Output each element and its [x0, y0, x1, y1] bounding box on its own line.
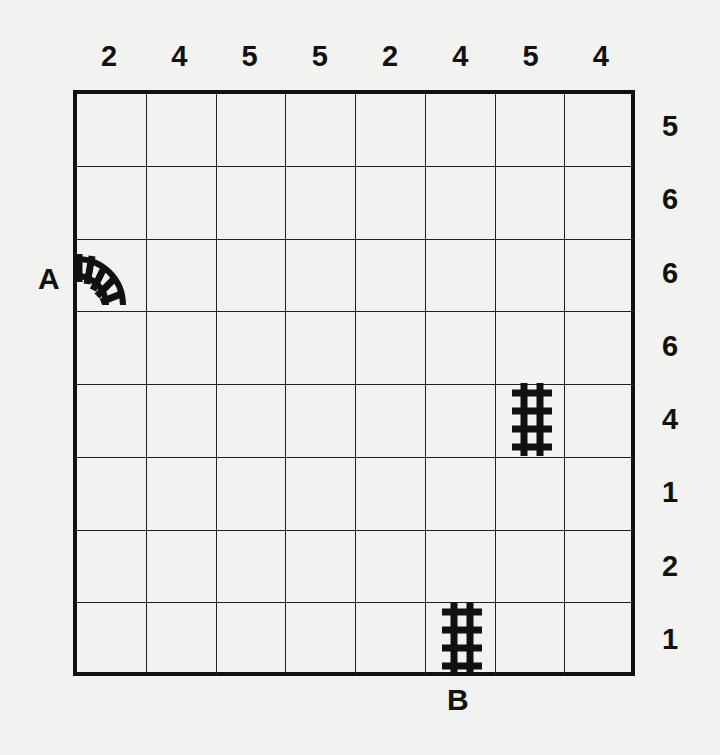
grid-cell[interactable] — [286, 531, 356, 604]
grid-cell[interactable] — [496, 458, 566, 531]
grid-cell[interactable] — [356, 240, 426, 313]
grid-cell[interactable] — [286, 312, 356, 385]
grid-cell[interactable] — [426, 458, 496, 531]
grid-cell[interactable] — [565, 385, 635, 458]
grid-cell[interactable] — [286, 167, 356, 240]
grid-cell[interactable] — [286, 94, 356, 167]
grid-cell[interactable] — [356, 312, 426, 385]
grid-cell[interactable] — [426, 240, 496, 313]
grid-cell[interactable] — [147, 458, 217, 531]
grid-cell[interactable] — [496, 603, 566, 676]
grid-cell[interactable] — [147, 603, 217, 676]
column-clue: 4 — [144, 40, 214, 73]
column-clue: 5 — [215, 40, 285, 73]
grid-cell[interactable] — [565, 94, 635, 167]
row-clue: 6 — [650, 183, 690, 216]
grid-cell[interactable] — [77, 385, 147, 458]
row-clue: 6 — [650, 330, 690, 363]
grid-cell[interactable] — [426, 531, 496, 604]
grid-cell[interactable] — [426, 385, 496, 458]
straight-track-icon — [427, 602, 497, 675]
row-clue: 5 — [650, 110, 690, 143]
row-clue: 1 — [650, 623, 690, 656]
grid-cell[interactable] — [147, 312, 217, 385]
grid-cell[interactable] — [147, 385, 217, 458]
grid-cell[interactable] — [77, 94, 147, 167]
grid-cell[interactable] — [356, 603, 426, 676]
row-clue: 2 — [650, 550, 690, 583]
grid-cell[interactable] — [356, 458, 426, 531]
end-label-b: B — [447, 683, 469, 717]
row-clue: 1 — [650, 476, 690, 509]
grid-cell[interactable] — [496, 312, 566, 385]
grid-cell[interactable] — [217, 385, 287, 458]
grid-cell[interactable] — [565, 240, 635, 313]
grid-cell[interactable] — [356, 167, 426, 240]
column-clue: 4 — [566, 40, 636, 73]
grid-cell[interactable] — [286, 240, 356, 313]
column-clue: 5 — [285, 40, 355, 73]
grid-cell[interactable] — [496, 531, 566, 604]
column-clue: 2 — [74, 40, 144, 73]
row-clue: 6 — [650, 257, 690, 290]
grid-cell[interactable] — [565, 603, 635, 676]
grid-cell[interactable] — [147, 240, 217, 313]
grid-cell[interactable] — [217, 531, 287, 604]
grid-cell[interactable] — [356, 385, 426, 458]
grid-cell[interactable] — [217, 458, 287, 531]
grid-cell[interactable] — [77, 603, 147, 676]
grid-cell[interactable] — [147, 167, 217, 240]
grid-cell[interactable] — [426, 94, 496, 167]
grid-cell[interactable] — [77, 312, 147, 385]
grid-cell[interactable] — [217, 312, 287, 385]
grid-cell[interactable] — [77, 531, 147, 604]
grid-cell[interactable] — [286, 603, 356, 676]
column-clue: 2 — [355, 40, 425, 73]
grid-cell[interactable] — [356, 531, 426, 604]
start-label-a: A — [38, 262, 60, 296]
grid-cell[interactable] — [565, 312, 635, 385]
grid-cell[interactable] — [217, 94, 287, 167]
grid-cell[interactable] — [147, 531, 217, 604]
grid-cell[interactable] — [496, 240, 566, 313]
grid-cell[interactable] — [77, 458, 147, 531]
grid-cell[interactable] — [496, 167, 566, 240]
grid-cell[interactable] — [286, 458, 356, 531]
grid-cell[interactable] — [426, 312, 496, 385]
curve-track-icon — [77, 240, 147, 313]
grid-cell[interactable] — [217, 167, 287, 240]
grid-cell[interactable] — [565, 458, 635, 531]
grid-cell[interactable] — [565, 167, 635, 240]
grid-cell[interactable] — [217, 603, 287, 676]
grid-cell[interactable] — [77, 167, 147, 240]
column-clue: 4 — [425, 40, 495, 73]
grid-cell[interactable] — [565, 531, 635, 604]
straight-track-icon — [497, 383, 567, 456]
grid-cell[interactable] — [356, 94, 426, 167]
row-clue: 4 — [650, 403, 690, 436]
grid-cell[interactable] — [147, 94, 217, 167]
grid-cell[interactable] — [496, 94, 566, 167]
column-clue: 5 — [496, 40, 566, 73]
grid-cell[interactable] — [217, 240, 287, 313]
grid-cell[interactable] — [286, 385, 356, 458]
grid-cell[interactable] — [426, 167, 496, 240]
